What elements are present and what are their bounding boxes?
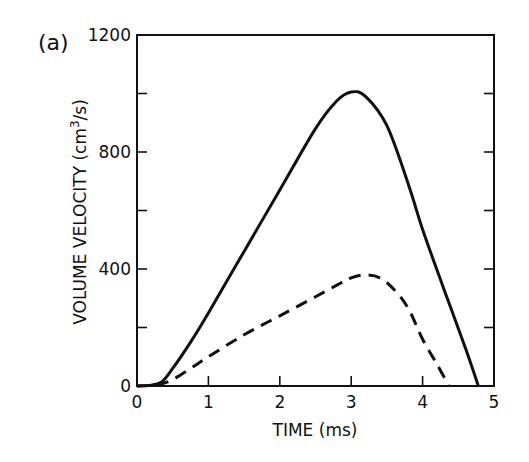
- x-tick-label: 0: [132, 392, 143, 412]
- series-solid-line: [137, 92, 478, 386]
- series-dashed-line: [137, 275, 449, 386]
- x-tick-label: 2: [274, 392, 285, 412]
- y-tick-label: 400: [99, 259, 131, 279]
- volume-velocity-chart: (a) 01234504008001200 TIME (ms) VOLUME V…: [0, 0, 529, 462]
- data-series: [137, 92, 478, 386]
- panel-label: (a): [38, 30, 69, 55]
- y-tick-label: 1200: [88, 25, 131, 45]
- x-tick-label: 4: [417, 392, 428, 412]
- y-tick-label: 0: [120, 376, 131, 396]
- y-axis-label: VOLUME VELOCITY (cm3/s): [68, 99, 90, 325]
- x-axis-label: TIME (ms): [272, 420, 358, 440]
- axis-ticks: 01234504008001200: [88, 25, 500, 412]
- x-tick-label: 3: [346, 392, 357, 412]
- y-tick-label: 800: [99, 142, 131, 162]
- x-tick-label: 1: [203, 392, 214, 412]
- plot-frame: [137, 35, 494, 386]
- x-tick-label: 5: [489, 392, 500, 412]
